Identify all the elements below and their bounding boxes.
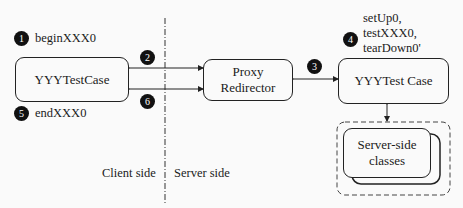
proxy-redirector-box: Proxy Redirector: [203, 59, 293, 101]
step-1-badge: 1: [14, 31, 29, 46]
server-side-label: Server side: [174, 166, 230, 181]
step-5-label: endXXX0: [35, 106, 86, 121]
proxy-label-line2: Redirector: [221, 80, 276, 96]
step-5-badge: 5: [14, 106, 29, 121]
step-6-badge: 6: [140, 94, 155, 109]
server-classes-line2: classes: [369, 153, 405, 169]
step-4-label-line3: tearDown0': [363, 41, 421, 56]
step-2-badge: 2: [140, 50, 155, 65]
step-4-badge: 4: [343, 32, 358, 47]
proxy-label-line1: Proxy: [232, 64, 263, 80]
server-classes-line1: Server-side: [358, 137, 417, 153]
server-test-case-label: YYYTest Case: [354, 73, 432, 89]
client-side-label: Client side: [102, 166, 156, 181]
step-1-label: beginXXX0: [35, 31, 96, 46]
client-test-case-label: YYYTestCase: [35, 72, 110, 88]
step-4-label-line1: setUp0,: [363, 11, 402, 26]
step-4-label-line2: testXXX0,: [363, 26, 417, 41]
step-3-badge: 3: [307, 59, 322, 74]
client-test-case-box: YYYTestCase: [15, 57, 129, 102]
server-side-classes-box: Server-side classes: [343, 128, 431, 178]
server-test-case-box: YYYTest Case: [338, 58, 449, 104]
